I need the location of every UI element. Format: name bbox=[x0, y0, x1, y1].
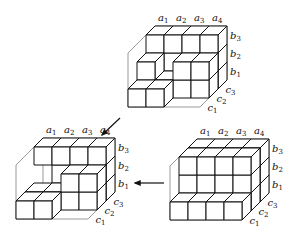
figures: a1a2a3a4b3b2b1c3c2c1a1a2a3a4b3b2b1c3c2c1… bbox=[16, 12, 283, 228]
label-c3: c3 bbox=[114, 196, 124, 209]
label-b2: b2 bbox=[118, 160, 129, 173]
label-b2: b2 bbox=[230, 48, 241, 61]
label-c3: c3 bbox=[226, 84, 236, 97]
figure-bottom-left: a1a2a3a4b3b2b1c3c2c1 bbox=[16, 124, 129, 227]
label-a1: a1 bbox=[158, 12, 168, 25]
label-b2: b2 bbox=[272, 161, 283, 174]
label-a1: a1 bbox=[46, 124, 56, 137]
label-b3: b3 bbox=[230, 30, 241, 43]
label-b3: b3 bbox=[118, 142, 129, 155]
figure-bottom-right: a1a2a3a4b3b2b1c3c2c1 bbox=[170, 125, 283, 228]
label-a2: a2 bbox=[64, 124, 74, 137]
label-a4: a4 bbox=[100, 124, 111, 137]
label-a3: a3 bbox=[82, 124, 92, 137]
label-c3: c3 bbox=[268, 197, 278, 210]
label-b1: b1 bbox=[230, 66, 241, 79]
label-a2: a2 bbox=[218, 125, 228, 138]
label-a4: a4 bbox=[212, 12, 223, 25]
label-b3: b3 bbox=[272, 143, 283, 156]
label-a3: a3 bbox=[194, 12, 204, 25]
cubes bbox=[170, 139, 269, 220]
cube-diagram: a1a2a3a4b3b2b1c3c2c1a1a2a3a4b3b2b1c3c2c1… bbox=[0, 0, 299, 232]
label-a2: a2 bbox=[176, 12, 186, 25]
label-b1: b1 bbox=[272, 179, 283, 192]
figure-top: a1a2a3a4b3b2b1c3c2c1 bbox=[128, 12, 241, 115]
label-a1: a1 bbox=[200, 125, 210, 138]
label-a3: a3 bbox=[236, 125, 246, 138]
label-a4: a4 bbox=[254, 125, 265, 138]
label-b1: b1 bbox=[118, 178, 129, 191]
